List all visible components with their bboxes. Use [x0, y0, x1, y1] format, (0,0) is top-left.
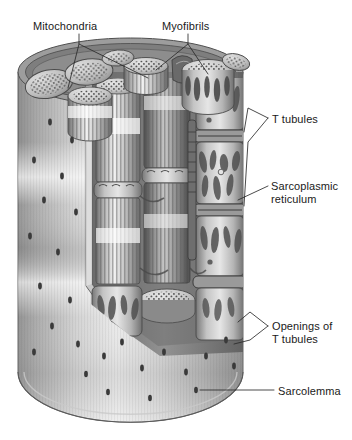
label-t-tubules: T tubules: [272, 113, 318, 126]
label-sarcoplasmic-reticulum-line2: reticulum: [271, 193, 317, 206]
t-tubule: [193, 204, 247, 216]
myofibril: [68, 87, 112, 141]
label-sarcoplasmic-reticulum-line1: Sarcoplasmic: [271, 180, 338, 193]
t-tubule: [193, 276, 247, 288]
muscle-fiber-illustration: [0, 0, 352, 440]
sarcoplasmic-reticulum: [142, 168, 192, 183]
label-openings-of-t-tubules-line1: Openings of: [272, 320, 332, 333]
t-tubule: [193, 130, 247, 142]
label-mitochondria: Mitochondria: [33, 20, 97, 33]
figure-canvas: Mitochondria Myofibrils T tubules Sarcop…: [0, 0, 352, 440]
leader-t-tubules-b: [244, 118, 268, 206]
sarcoplasmic-reticulum: [94, 182, 142, 198]
label-myofibrils: Myofibrils: [162, 20, 209, 33]
label-sarcolemma: Sarcolemma: [278, 385, 341, 398]
leader-t-tubules-a: [244, 108, 268, 132]
label-openings-of-t-tubules-line2: T tubules: [272, 333, 318, 346]
myofibril: [182, 60, 234, 115]
myofibril: [124, 58, 168, 95]
t-tubule: [188, 120, 196, 260]
